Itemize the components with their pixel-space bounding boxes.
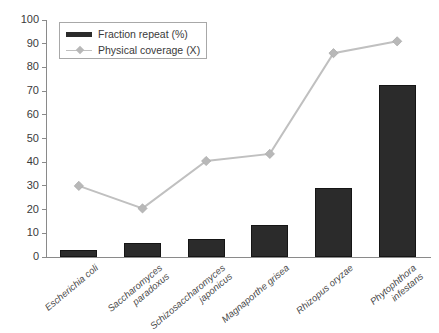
tick-mark [42, 138, 46, 139]
x-axis-label: Schizosaccharomycesjaponicus [148, 262, 235, 333]
x-axis-label-line: paradoxus [112, 270, 171, 322]
y-axis-tick-label: 50 [27, 132, 39, 145]
y-axis-tick-label: 0 [33, 250, 39, 263]
x-axis-label-line: Phytophthora [368, 262, 418, 307]
x-axis-label-line: Saccharomyces [105, 262, 164, 314]
legend-item-label: Physical coverage (X) [98, 44, 200, 57]
line-marker [265, 149, 274, 158]
x-axis-label-line: Magnaporthe grisea [219, 262, 291, 325]
y-axis-tick-label: 90 [27, 37, 39, 50]
line-marker-swatch-icon [65, 44, 93, 56]
x-axis-label: Saccharomycesparadoxus [105, 262, 171, 322]
line-marker [74, 181, 83, 190]
x-axis-label: Phytophthorainfestans [368, 262, 425, 315]
y-axis-tick-label: 40 [27, 155, 39, 168]
x-axis-label-line: infestans [375, 270, 425, 315]
line-path [79, 41, 397, 208]
line-marker [329, 49, 338, 58]
x-axis-label: Rhizopus oryzae [293, 262, 354, 316]
y-axis-tick-label: 10 [27, 226, 39, 239]
tick-mark [42, 43, 46, 44]
y-axis-tick-label: 100 [21, 13, 39, 26]
x-axis-label-line: japonicus [155, 270, 234, 333]
tick-mark [42, 209, 46, 210]
line-marker [393, 37, 402, 46]
tick-mark [42, 91, 46, 92]
tick-mark [42, 114, 46, 115]
tick-mark [42, 233, 46, 234]
y-axis-tick-label: 30 [27, 179, 39, 192]
x-axis-line [46, 257, 431, 258]
y-axis-tick-label: 20 [27, 203, 39, 216]
tick-mark [42, 20, 46, 21]
legend-item-physical-coverage: Physical coverage (X) [65, 42, 201, 58]
legend-item-label: Fraction repeat (%) [98, 28, 188, 41]
tick-mark [42, 257, 46, 258]
y-axis-tick-label: 60 [27, 108, 39, 121]
legend-item-fraction-repeat: Fraction repeat (%) [65, 26, 201, 42]
x-axis-label-line: Escherichia coli [42, 262, 100, 313]
tick-mark [42, 185, 46, 186]
tick-mark [42, 162, 46, 163]
y-axis-tick-label: 80 [27, 60, 39, 73]
x-axis-label-line: Schizosaccharomyces [148, 262, 227, 331]
bar-swatch-icon [65, 28, 93, 40]
tick-mark [42, 67, 46, 68]
x-axis-label: Escherichia coli [42, 262, 100, 313]
y-axis-tick-label: 70 [27, 84, 39, 97]
x-axis-label: Magnaporthe grisea [219, 262, 291, 325]
legend: Fraction repeat (%) Physical coverage (X… [59, 22, 207, 59]
x-axis-label-line: Rhizopus oryzae [293, 262, 354, 316]
